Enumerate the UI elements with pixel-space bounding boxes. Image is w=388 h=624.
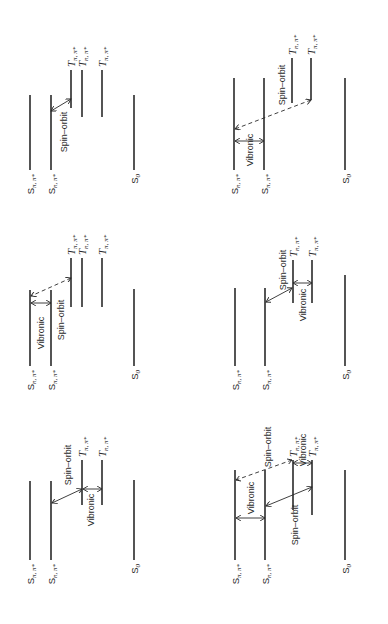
state-label: Sπ, π* (25, 564, 39, 585)
vibronic-label: Vibronic (36, 316, 46, 349)
state-label: Sn, π* (229, 174, 243, 195)
spin-orbit-label: Spin–orbit (277, 64, 287, 105)
state-label: Tπ, π* (96, 46, 111, 67)
state-label: Tn, π* (287, 236, 302, 257)
energy-diagram-canvas: Sπ, π*Sn, π*Tπ, π*Tn, π*Tπ, π*S0Spin–orb… (0, 0, 388, 624)
spin-orbit-coupling-arrow (51, 99, 71, 111)
state-label: Sπ, π* (230, 564, 244, 585)
vibronic-label: Vibronic (245, 133, 255, 166)
state-label: Sn, π* (25, 370, 39, 391)
vibronic-label: Vibronic (298, 288, 308, 321)
state-label: S0 (340, 564, 354, 574)
state-label: Sπ, π* (46, 370, 60, 391)
spin-orbit-coupling-arrow (52, 489, 82, 503)
state-label: Tn, π* (96, 436, 111, 457)
state-label: Sn, π* (230, 370, 244, 391)
spin-orbit-label: Spin–orbit (63, 444, 73, 485)
state-label: Tπ, π* (96, 234, 111, 255)
state-label: Sπ, π* (25, 174, 39, 195)
panel-bottom-right: Sπ, π*Sn, π*Tn, π*Tπ, π*S0Spin–orbitSpin… (230, 426, 354, 584)
spin-orbit-coupling-arrow (235, 100, 311, 129)
spin-orbit-coupling-arrow (266, 487, 312, 506)
state-label: Sn, π* (260, 564, 274, 585)
state-label: S0 (129, 174, 143, 184)
spin-orbit-label: Spin–orbit (290, 504, 300, 545)
panel-bottom-left: Sπ, π*Sn, π*Tπ, π*Tn, π*S0Spin–orbitVibr… (25, 436, 143, 584)
vibronic-label: Vibronic (246, 481, 256, 514)
vibronic-label: Vibronic (86, 493, 96, 526)
state-label: Sπ, π* (259, 174, 273, 195)
state-label: Sn, π* (46, 564, 60, 585)
state-label: S0 (340, 174, 354, 184)
panel-middle-right: Sn, π*Sπ, π*Tn, π*Tπ, π*S0Spin–orbitVibr… (230, 236, 354, 390)
state-label: S0 (129, 564, 143, 574)
vibronic-label: Vibronic (298, 433, 308, 466)
state-label: S0 (340, 370, 354, 380)
state-label: Tπ, π* (76, 436, 91, 457)
panel-top-left: Sπ, π*Sn, π*Tπ, π*Tn, π*Tπ, π*S0Spin–orb… (25, 46, 143, 194)
state-label: Tπ, π* (305, 34, 320, 55)
state-label: Sπ, π* (260, 370, 274, 391)
panel-top-right: Sn, π*Sπ, π*Tn, π*Tπ, π*S0Spin–orbitVibr… (229, 34, 354, 194)
state-label: Tn, π* (286, 34, 301, 55)
state-label: S0 (129, 370, 143, 380)
energy-level-figure: Sπ, π*Sn, π*Tπ, π*Tn, π*Tπ, π*S0Spin–orb… (0, 0, 388, 624)
state-label: Tπ, π* (306, 236, 321, 257)
spin-orbit-label: Spin–orbit (56, 299, 66, 340)
spin-orbit-label: Spin–orbit (278, 249, 288, 290)
spin-orbit-label: Spin–orbit (59, 111, 69, 152)
state-label: Sn, π* (46, 174, 60, 195)
panel-middle-left: Sn, π*Sπ, π*Tπ, π*Tn, π*Tπ, π*S0Spin–orb… (25, 234, 143, 390)
spin-orbit-label: Spin–orbit (263, 426, 273, 467)
